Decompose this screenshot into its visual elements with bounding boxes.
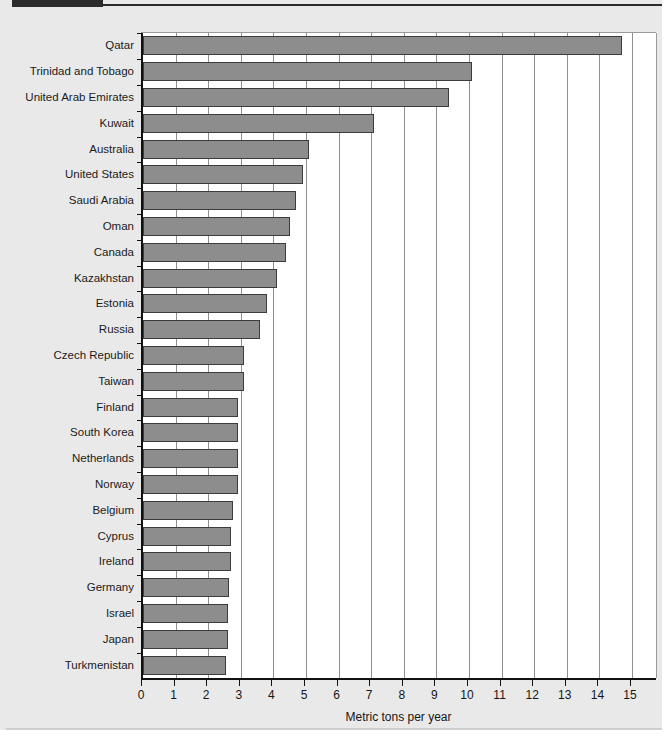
bar-row [143,656,656,675]
value-tick [565,680,566,686]
category-label: Kuwait [2,117,134,129]
value-tick [434,680,435,686]
category-tick [137,240,143,241]
value-tick-label: 9 [419,688,449,702]
bar-row [143,243,656,262]
category-tick [137,85,143,86]
category-tick [137,601,143,602]
bar [143,294,267,313]
value-tick [597,680,598,686]
bar [143,191,296,210]
category-tick [137,446,143,447]
bar [143,604,228,623]
bar [143,630,228,649]
bar-row [143,346,656,365]
bar [143,398,238,417]
bar-row [143,62,656,81]
category-label: Kazakhstan [2,272,134,284]
bar-row [143,165,656,184]
category-tick [137,59,143,60]
category-tick [137,343,143,344]
bar-row [143,88,656,107]
header-rule [103,4,663,6]
category-label: South Korea [2,426,134,438]
category-tick [137,627,143,628]
category-tick [137,188,143,189]
category-label: Czech Republic [2,349,134,361]
category-label: United Arab Emirates [2,91,134,103]
page-edge-bottom [0,730,670,740]
bar [143,656,226,675]
value-tick-label: 10 [452,688,482,702]
bar [143,372,244,391]
x-axis-title: Metric tons per year [141,710,656,724]
bar-row [143,191,656,210]
value-tick [337,680,338,686]
value-tick [630,680,631,686]
category-tick [137,137,143,138]
bar [143,165,303,184]
bar [143,217,290,236]
category-label: Australia [2,143,134,155]
category-tick [137,524,143,525]
value-tick-label: 8 [387,688,417,702]
value-tick [239,680,240,686]
category-label: Canada [2,246,134,258]
bar-row [143,578,656,597]
value-tick-label: 3 [224,688,254,702]
category-label: Cyprus [2,530,134,542]
category-label: Trinidad and Tobago [2,65,134,77]
bar [143,320,260,339]
category-tick [137,33,143,34]
category-tick [137,575,143,576]
category-tick [137,317,143,318]
category-axis-labels: QatarTrinidad and TobagoUnited Arab Emir… [0,33,134,678]
bar [143,243,286,262]
bar [143,475,238,494]
value-tick [532,680,533,686]
bar-row [143,604,656,623]
figure-title [110,0,660,2]
category-label: Ireland [2,555,134,567]
category-tick [137,291,143,292]
value-tick-label: 4 [256,688,286,702]
category-label: United States [2,168,134,180]
value-tick-label: 1 [159,688,189,702]
category-tick [137,653,143,654]
figure-number-tab [12,0,103,7]
bar-row [143,269,656,288]
category-label: Belgium [2,504,134,516]
bar [143,527,231,546]
category-tick [137,420,143,421]
bar-row [143,423,656,442]
category-label: Netherlands [2,452,134,464]
value-tick [369,680,370,686]
category-label: Saudi Arabia [2,194,134,206]
value-tick-label: 5 [289,688,319,702]
bar-row [143,320,656,339]
page-edge-right [662,0,670,740]
category-tick [137,266,143,267]
bar-row [143,372,656,391]
bar [143,62,472,81]
category-label: Qatar [2,39,134,51]
value-tick-label: 7 [354,688,384,702]
category-label: Israel [2,607,134,619]
value-tick [271,680,272,686]
category-tick [137,395,143,396]
bar [143,140,309,159]
bar-row [143,527,656,546]
bar-row [143,36,656,55]
bar-row [143,140,656,159]
category-tick [137,369,143,370]
category-label: Norway [2,478,134,490]
category-label: Estonia [2,297,134,309]
category-tick [137,498,143,499]
bar [143,501,233,520]
bar-row [143,398,656,417]
bar [143,114,374,133]
value-tick-label: 12 [517,688,547,702]
bar-row [143,552,656,571]
value-tick-label: 14 [582,688,612,702]
page-edge-bottom-rule [6,728,662,730]
